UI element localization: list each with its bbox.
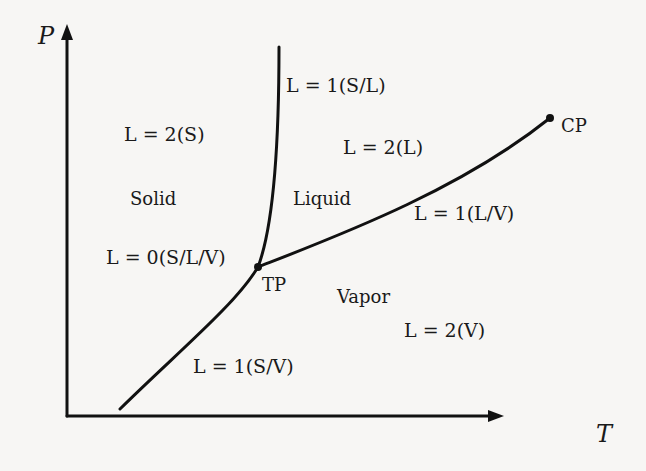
vapor-count-label: L = 2(V) (404, 319, 485, 341)
critical-point-marker (546, 114, 554, 122)
solid-count-label: L = 2(S) (124, 123, 205, 145)
p-axis-arrow-icon (61, 24, 73, 40)
melting-curve (258, 47, 279, 267)
sublimation-curve-label: L = 1(S/V) (193, 355, 294, 377)
melting-curve-label: L = 1(S/L) (286, 74, 386, 96)
triple-point-marker (254, 263, 262, 271)
t-axis-label: T (596, 420, 612, 448)
critical-point-label: CP (561, 115, 587, 136)
liquid-count-label: L = 2(L) (343, 136, 423, 158)
triple-point-label: TP (262, 274, 286, 295)
phase-diagram-canvas (0, 0, 646, 471)
solid-region-label: Solid (130, 188, 176, 209)
p-axis-label: P (38, 22, 54, 50)
liquid-region-label: Liquid (293, 188, 351, 209)
triple-point-count-label: L = 0(S/L/V) (106, 246, 226, 268)
t-axis-arrow-icon (488, 410, 504, 422)
vaporization-curve-label: L = 1(L/V) (414, 202, 514, 224)
vapor-region-label: Vapor (337, 286, 390, 307)
sublimation-curve (120, 267, 258, 409)
